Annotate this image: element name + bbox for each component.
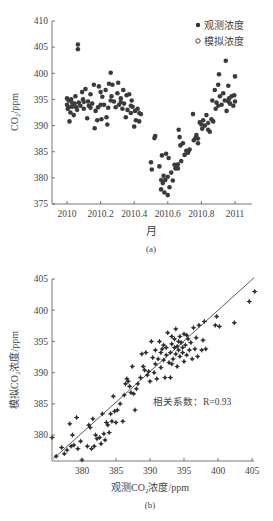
data-point xyxy=(76,47,81,52)
data-point xyxy=(216,104,220,108)
data-point xyxy=(161,174,166,179)
data-point xyxy=(197,323,202,328)
data-point xyxy=(176,162,180,166)
data-point xyxy=(148,379,153,384)
data-point xyxy=(154,376,159,381)
data-point xyxy=(232,93,237,98)
data-point xyxy=(186,150,190,154)
data-point xyxy=(214,314,219,319)
x-tick-label: 2010.4 xyxy=(121,209,147,219)
data-point xyxy=(99,103,103,107)
y-tick-label: 385 xyxy=(34,147,49,157)
data-point xyxy=(166,156,171,161)
data-point xyxy=(176,128,181,133)
data-point xyxy=(179,159,184,164)
data-point xyxy=(196,141,201,146)
chart-a-time-series: 375380385390395400405410 20102010.22010.… xyxy=(9,16,252,254)
x-tick-label: 395 xyxy=(177,466,192,476)
data-point xyxy=(221,91,226,96)
data-point xyxy=(178,354,183,359)
data-point xyxy=(138,375,143,380)
x-tick-label: 385 xyxy=(109,466,124,476)
data-point xyxy=(157,164,162,169)
data-point xyxy=(127,92,132,97)
data-point xyxy=(232,320,237,325)
data-point xyxy=(169,342,174,347)
data-point xyxy=(106,106,111,111)
y-tick-label: 390 xyxy=(34,121,49,131)
data-point xyxy=(184,353,189,358)
data-point xyxy=(194,335,199,340)
data-point xyxy=(150,355,155,360)
data-point xyxy=(201,118,206,123)
data-point xyxy=(100,411,105,416)
legend: 观测浓度 模拟浓度 xyxy=(196,19,244,47)
data-point xyxy=(73,94,78,99)
x-axis-label: 月 xyxy=(146,225,157,237)
data-point xyxy=(149,160,154,165)
data-point xyxy=(173,352,178,357)
x-tick-label: 405 xyxy=(245,466,260,476)
data-point xyxy=(119,100,123,104)
figure: 375380385390395400405410 20102010.22010.… xyxy=(0,0,273,521)
data-point xyxy=(109,99,113,103)
data-point xyxy=(132,124,137,129)
data-point xyxy=(104,115,109,120)
y-tick-label: 400 xyxy=(34,69,49,79)
data-point xyxy=(116,80,121,85)
data-point xyxy=(97,84,102,89)
data-point xyxy=(118,401,123,406)
data-point xyxy=(193,347,198,352)
data-point xyxy=(101,431,106,436)
data-point xyxy=(70,433,75,438)
data-point xyxy=(201,338,206,343)
observed-concentration-points xyxy=(65,42,238,197)
data-point xyxy=(76,42,81,47)
data-point xyxy=(164,152,169,157)
data-point xyxy=(150,167,155,172)
data-point xyxy=(109,94,114,99)
chart-b-scatter-comparison: 380385390395400405 380385390395400405 相关… xyxy=(8,274,259,510)
data-point xyxy=(85,116,90,121)
data-point xyxy=(129,98,134,103)
data-point xyxy=(159,178,163,182)
data-point xyxy=(182,359,187,364)
data-point xyxy=(67,421,72,426)
y-tick-label: 410 xyxy=(34,16,49,26)
y-tick-label: 390 xyxy=(34,368,49,378)
data-point xyxy=(224,58,229,63)
y-tick-label: 405 xyxy=(34,274,49,284)
data-point xyxy=(210,98,215,103)
y-tick-label: 380 xyxy=(34,173,49,183)
data-point xyxy=(166,175,170,179)
data-point xyxy=(67,105,71,109)
data-point xyxy=(169,170,174,175)
data-point xyxy=(80,90,85,95)
data-point xyxy=(211,119,216,124)
y-tick-label: 405 xyxy=(34,42,49,52)
data-point xyxy=(157,339,162,344)
data-point xyxy=(208,130,213,135)
data-point xyxy=(226,84,231,89)
data-point xyxy=(171,357,176,362)
data-point xyxy=(178,334,183,339)
data-point xyxy=(168,375,173,380)
data-point xyxy=(180,350,185,355)
data-point xyxy=(190,357,195,362)
data-point xyxy=(103,88,108,93)
x-tick-label: 380 xyxy=(75,466,90,476)
x-tick-label: 2010 xyxy=(58,209,77,219)
data-point xyxy=(130,364,135,369)
data-point xyxy=(120,419,125,424)
data-point xyxy=(75,108,79,112)
x-tick-label: 2011 xyxy=(226,209,245,219)
data-point xyxy=(226,100,230,104)
data-point xyxy=(233,99,238,104)
data-point xyxy=(120,107,125,112)
data-point xyxy=(92,126,97,131)
data-point xyxy=(108,71,113,76)
data-point xyxy=(83,87,88,92)
data-point xyxy=(160,153,165,158)
y-tick-label: 385 xyxy=(34,399,49,409)
data-point xyxy=(88,92,93,97)
